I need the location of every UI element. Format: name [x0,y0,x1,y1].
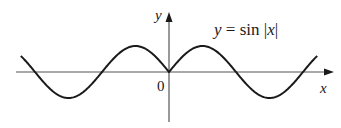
y-axis-arrow-icon [166,12,173,22]
equation-bar: | [275,20,278,39]
equation-label: y = sin |x| [212,20,278,39]
x-axis-label: x [319,80,327,96]
x-axis-arrow-icon [324,69,334,76]
graph-y-equals-sin-abs-x: y x 0 y = sin |x| [0,0,341,128]
y-axis-label: y [153,7,162,23]
equation-middle: = sin | [222,20,268,39]
origin-label: 0 [157,78,165,94]
equation-y: y [212,20,222,39]
